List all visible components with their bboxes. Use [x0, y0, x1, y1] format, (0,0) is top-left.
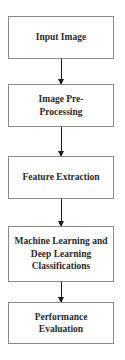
node-image-preprocessing: Image Pre-Processing — [8, 84, 114, 127]
arrow-classify-to-evaluate — [61, 282, 62, 302]
arrow-input-to-preprocess — [61, 59, 62, 84]
node-ml-dl-classifications: Machine Learning and Deep Learning Class… — [8, 226, 114, 282]
node-input-image: Input Image — [8, 16, 114, 59]
node-label: Image Pre-Processing — [9, 93, 113, 118]
node-feature-extraction: Feature Extraction — [8, 156, 114, 199]
arrow-features-to-classify — [61, 199, 62, 226]
node-label: Input Image — [33, 31, 89, 44]
node-label: Machine Learning and Deep Learning Class… — [9, 235, 113, 273]
node-performance-evaluation: Performance Evaluation — [8, 302, 114, 344]
arrow-preprocess-to-features — [61, 127, 62, 156]
node-label: Performance Evaluation — [9, 311, 113, 336]
node-label: Feature Extraction — [19, 171, 102, 184]
